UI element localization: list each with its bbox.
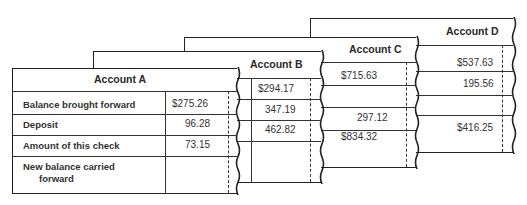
row-divider bbox=[13, 114, 237, 115]
row-divider bbox=[13, 156, 237, 157]
dashed-divider bbox=[310, 78, 311, 182]
row-label-new-balance: New balance carried bbox=[23, 161, 115, 172]
account-a-title: Account A bbox=[94, 73, 146, 85]
account-b-value-3: 462.82 bbox=[265, 124, 296, 135]
row-label-check-amount: Amount of this check bbox=[23, 140, 120, 151]
account-d-title: Account D bbox=[446, 25, 499, 37]
account-a-card: Account A Balance brought forward $275.2… bbox=[12, 68, 237, 194]
account-c-title: Account C bbox=[349, 43, 402, 55]
row-label-new-balance-2: forward bbox=[39, 173, 74, 184]
dashed-divider bbox=[406, 62, 407, 167]
account-d-value-2: 195.56 bbox=[463, 78, 494, 89]
row-value-deposit: 96.28 bbox=[185, 118, 210, 129]
row-label-balance-forward: Balance brought forward bbox=[23, 99, 135, 110]
account-c-value-1: $715.63 bbox=[341, 70, 377, 81]
row-value-check-amount: 73.15 bbox=[185, 139, 210, 150]
account-d-value-4: $416.25 bbox=[457, 122, 493, 133]
divider bbox=[165, 91, 166, 193]
dashed-divider bbox=[228, 91, 229, 193]
row-label-deposit: Deposit bbox=[23, 119, 58, 130]
account-b-title: Account B bbox=[250, 58, 303, 70]
row-value-balance-forward: $275.26 bbox=[172, 98, 208, 109]
row-divider bbox=[13, 135, 237, 136]
account-b-value-1: $294.17 bbox=[258, 83, 294, 94]
account-c-value-3: 297.12 bbox=[357, 112, 388, 123]
dashed-divider bbox=[502, 45, 503, 152]
divider bbox=[251, 78, 252, 182]
account-a-header: Account A bbox=[13, 69, 237, 92]
account-b-value-2: 347.19 bbox=[265, 104, 296, 115]
account-d-value-1: $537.63 bbox=[457, 57, 493, 68]
account-c-value-4: $834.32 bbox=[341, 131, 377, 142]
